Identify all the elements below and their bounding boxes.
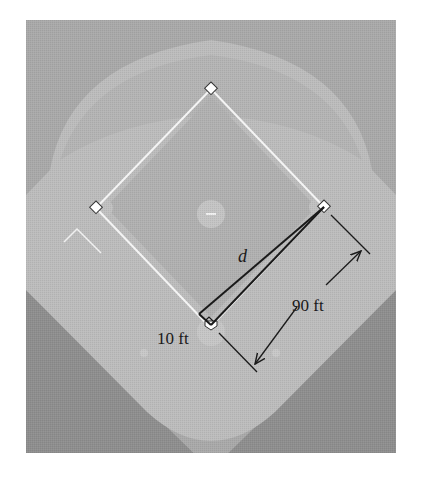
baseball-diamond-figure: d 90 ft 10 ft xyxy=(0,0,426,485)
label-10ft: 10 ft xyxy=(157,329,189,348)
label-d: d xyxy=(238,246,248,266)
label-90ft: 90 ft xyxy=(292,296,324,315)
